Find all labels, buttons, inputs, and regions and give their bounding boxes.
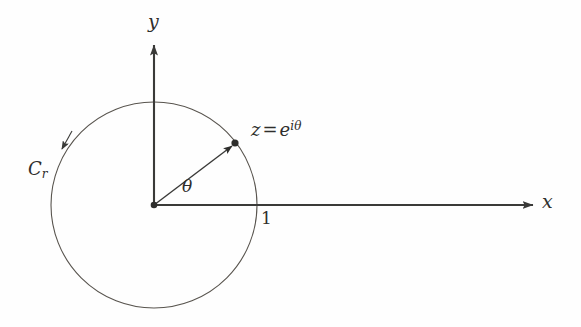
point-z-marker [231,139,238,146]
contour-label: Cr [28,160,48,180]
exponential-base: e [280,119,291,140]
point-z-variable: z [251,119,260,140]
complex-plane-figure: y x θ 1 Cr z=eiθ [0,0,581,327]
contour-label-subscript: r [42,167,48,181]
radius-vector-arrow [154,146,232,205]
figure-canvas [0,0,581,327]
y-axis-label: y [148,12,159,31]
angle-theta-label: θ [182,178,192,195]
point-z-label: z=eiθ [251,120,302,139]
exponential-exponent: iθ [290,119,301,133]
equals-sign: = [262,119,277,140]
unit-tick-label: 1 [261,210,272,227]
x-axis-label: x [542,192,553,211]
origin-point [151,202,158,209]
contour-label-main: C [28,158,42,179]
contour-direction-arrow-icon [62,131,72,149]
